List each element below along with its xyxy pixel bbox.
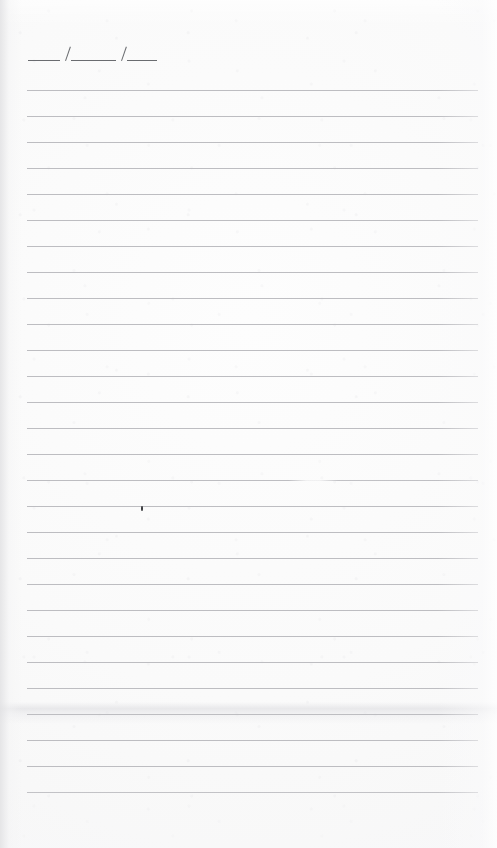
ruled-line — [27, 558, 478, 559]
ruled-line — [27, 116, 478, 117]
ruled-line — [27, 454, 478, 455]
date-segment-year[interactable] — [127, 59, 157, 61]
ruled-line — [27, 688, 478, 689]
ruled-line — [27, 90, 478, 91]
ruled-line — [27, 402, 478, 403]
notebook-page — [0, 0, 497, 848]
ruled-line — [27, 506, 478, 507]
ruled-line — [27, 350, 478, 351]
ruled-line — [27, 194, 478, 195]
ruled-line — [27, 636, 478, 637]
ruled-line — [27, 142, 478, 143]
ink-dot-mark — [141, 506, 143, 511]
ruled-line — [27, 714, 478, 715]
date-slash-icon — [117, 46, 126, 61]
ruled-line — [27, 792, 478, 793]
ruled-line — [27, 428, 478, 429]
ruled-line — [27, 376, 478, 377]
date-segment-month[interactable] — [28, 59, 60, 61]
ruled-line — [27, 766, 478, 767]
ruled-line — [27, 610, 478, 611]
ruled-line — [27, 532, 478, 533]
ruled-line — [27, 220, 478, 221]
date-slash-icon — [61, 46, 70, 61]
ruled-line — [27, 324, 478, 325]
paper-surface — [0, 0, 497, 848]
ruled-line — [27, 740, 478, 741]
ruled-line — [27, 662, 478, 663]
ruled-line — [27, 584, 478, 585]
ruled-line — [27, 272, 478, 273]
ruled-line — [27, 168, 478, 169]
ruled-line — [27, 480, 478, 481]
date-field[interactable] — [28, 45, 157, 61]
ruled-line — [27, 246, 478, 247]
date-segment-day[interactable] — [71, 59, 116, 61]
ruled-line — [27, 298, 478, 299]
